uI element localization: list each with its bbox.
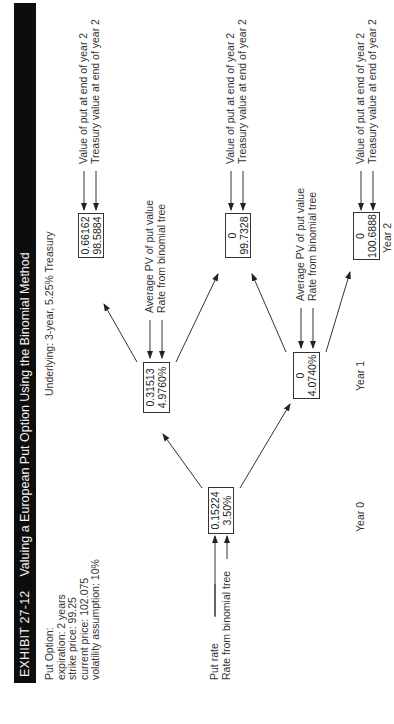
node-year1-up-rate: 4.9760% bbox=[157, 363, 169, 412]
node-year0: 0.15224 3.50% bbox=[208, 487, 234, 534]
year0-legend: Put rate Rate from binomial tree bbox=[209, 571, 232, 680]
year1-up-legend-rate: Rate from binomial tree bbox=[156, 200, 168, 313]
node-year2-dd-value: 0 bbox=[355, 213, 367, 259]
axis-year2: Year 2 bbox=[382, 223, 394, 253]
year2-top-legend: Value of put at end of year 2 Treasury v… bbox=[78, 19, 101, 164]
year2-bottom-legend-treasury: Treasury value at end of year 2 bbox=[367, 19, 379, 164]
node-year2-ud-price: 99.7328 bbox=[239, 214, 251, 257]
year2-middle-legend-treasury: Treasury value at end of year 2 bbox=[237, 19, 249, 164]
year2-bottom-legend: Value of put at end of year 2 Treasury v… bbox=[355, 19, 378, 164]
node-year2-uu: 0.66162 98.5884 bbox=[78, 213, 104, 258]
node-year2-ud-value: 0 bbox=[227, 214, 239, 257]
year2-top-legend-treasury: Treasury value at end of year 2 bbox=[90, 19, 102, 164]
year1-down-legend-rate: Rate from binomial tree bbox=[307, 188, 319, 301]
year2-middle-legend-put: Value of put at end of year 2 bbox=[225, 19, 237, 164]
node-year0-value: 0.15224 bbox=[210, 488, 222, 533]
node-year2-dd-price: 100.6888 bbox=[367, 213, 379, 259]
year1-up-legend-pv: Average PV of put value bbox=[144, 200, 156, 313]
node-year1-up: 0.31513 4.9760% bbox=[143, 362, 170, 413]
node-year1-down-value: 0 bbox=[295, 353, 307, 398]
year2-bottom-legend-put: Value of put at end of year 2 bbox=[355, 19, 367, 164]
node-year2-dd: 0 100.6888 bbox=[353, 212, 380, 260]
axis-year0: Year 0 bbox=[355, 502, 367, 532]
node-year2-ud: 0 99.7328 bbox=[225, 213, 251, 258]
year1-up-legend: Average PV of put value Rate from binomi… bbox=[144, 200, 167, 313]
axis-year1: Year 1 bbox=[355, 361, 367, 391]
node-year1-down-rate: 4.0740% bbox=[307, 353, 319, 398]
node-year1-up-value: 0.31513 bbox=[145, 363, 157, 412]
node-year1-down: 0 4.0740% bbox=[293, 352, 320, 399]
year1-down-legend: Average PV of put value Rate from binomi… bbox=[295, 188, 318, 301]
year0-legend-put-rate: Put rate bbox=[209, 571, 221, 680]
node-year0-rate: 3.50% bbox=[222, 488, 234, 533]
year2-top-legend-put: Value of put at end of year 2 bbox=[78, 19, 90, 164]
year2-middle-legend: Value of put at end of year 2 Treasury v… bbox=[225, 19, 248, 164]
year1-down-legend-pv: Average PV of put value bbox=[295, 188, 307, 301]
year0-legend-rate: Rate from binomial tree bbox=[221, 571, 233, 680]
node-year2-uu-price: 98.5884 bbox=[92, 214, 104, 257]
node-year2-uu-value: 0.66162 bbox=[80, 214, 92, 257]
